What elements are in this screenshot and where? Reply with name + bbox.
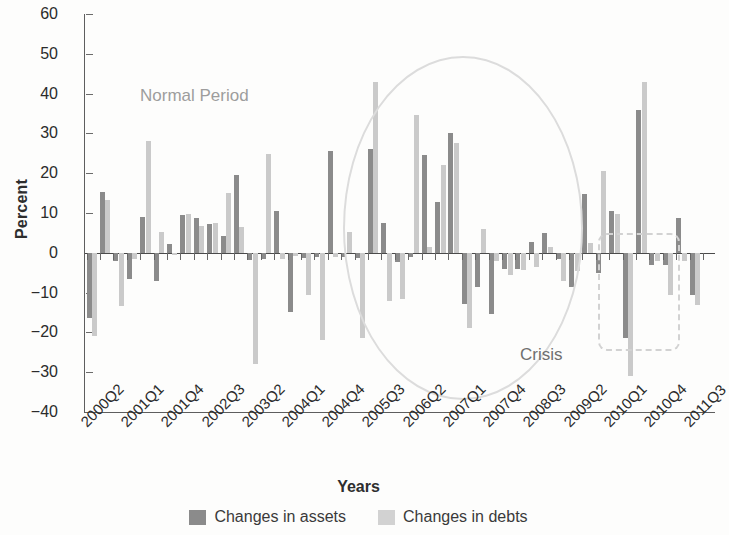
bar-debts: [119, 253, 124, 306]
x-tick-mark: [194, 253, 195, 260]
x-tick-mark: [569, 253, 570, 260]
bar-debts: [682, 253, 687, 261]
bar-assets: [422, 155, 427, 253]
bar-debts: [213, 223, 218, 253]
bar-assets: [462, 253, 467, 304]
y-tick-label: 0: [12, 244, 58, 262]
x-tick-mark: [690, 253, 691, 260]
x-tick-mark: [288, 253, 289, 260]
bar-group: [623, 14, 636, 412]
legend-label: Changes in debts: [403, 508, 528, 526]
bar-assets: [100, 192, 105, 253]
bar-debts: [373, 82, 378, 253]
bar-debts: [494, 253, 499, 261]
bar-debts: [467, 253, 472, 329]
bar-assets: [288, 253, 293, 313]
bar-group: [690, 14, 703, 412]
x-tick-mark: [596, 253, 597, 260]
legend-item: Changes in debts: [378, 508, 528, 526]
bar-assets: [234, 175, 239, 253]
bar-group: [596, 14, 609, 412]
x-tick-mark: [328, 253, 329, 260]
bar-assets: [381, 223, 386, 253]
bar-group: [154, 14, 167, 412]
bar-group: [475, 14, 488, 412]
bar-debts: [575, 253, 580, 271]
bar-assets: [368, 149, 373, 252]
y-tick-label: 50: [12, 45, 58, 63]
x-tick-mark: [395, 253, 396, 260]
bar-debts: [414, 115, 419, 252]
bar-debts: [186, 214, 191, 253]
bar-assets: [140, 217, 145, 253]
bar-assets: [435, 202, 440, 253]
bar-assets: [636, 110, 641, 253]
x-tick-mark: [140, 253, 141, 260]
bar-debts: [508, 253, 513, 275]
bar-debts: [239, 227, 244, 253]
bar-group: [502, 14, 515, 412]
bar-group: [462, 14, 475, 412]
x-tick-mark: [341, 253, 342, 260]
legend-swatch-debts: [378, 510, 395, 525]
bar-group: [247, 14, 260, 412]
bar-debts: [253, 253, 258, 364]
bar-debts: [534, 253, 539, 267]
x-tick-mark: [154, 253, 155, 260]
bar-debts: [360, 253, 365, 339]
bar-group: [234, 14, 247, 412]
bar-assets: [167, 244, 172, 253]
bar-debts: [441, 165, 446, 253]
x-tick-mark: [261, 253, 262, 260]
bar-group: [448, 14, 461, 412]
x-axis-title: Years: [0, 478, 717, 496]
bar-group: [489, 14, 502, 412]
y-tick-label: 20: [12, 164, 58, 182]
x-tick-mark: [381, 253, 382, 260]
x-tick-mark: [167, 253, 168, 260]
bar-group: [368, 14, 381, 412]
bar-assets: [180, 215, 185, 253]
bar-debts: [387, 253, 392, 301]
bar-assets: [529, 242, 534, 253]
bar-group: [140, 14, 153, 412]
bar-debts: [159, 232, 164, 253]
x-tick-mark: [542, 253, 543, 260]
crisis-dashed-box-annotation: [598, 233, 680, 351]
x-tick-mark: [113, 253, 114, 260]
normal-period-label: Normal Period: [140, 86, 249, 106]
bar-group: [395, 14, 408, 412]
bar-debts: [454, 143, 459, 252]
bar-group: [422, 14, 435, 412]
bar-group: [435, 14, 448, 412]
bar-debts: [588, 243, 593, 253]
y-tick-label: −40: [12, 403, 58, 421]
x-tick-mark: [475, 253, 476, 260]
bar-group: [381, 14, 394, 412]
x-tick-mark: [502, 253, 503, 260]
bar-group: [314, 14, 327, 412]
bar-debts: [226, 193, 231, 253]
bar-group: [288, 14, 301, 412]
bar-debts: [521, 253, 526, 270]
bar-group: [341, 14, 354, 412]
bar-assets: [274, 211, 279, 252]
bar-group: [221, 14, 234, 412]
bar-debts: [266, 154, 271, 253]
bar-group: [408, 14, 421, 412]
bar-group: [113, 14, 126, 412]
bar-group: [582, 14, 595, 412]
bar-debts: [400, 253, 405, 299]
bar-debts: [92, 253, 97, 337]
bar-group: [194, 14, 207, 412]
x-tick-mark: [127, 253, 128, 260]
bar-group: [180, 14, 193, 412]
x-tick-mark: [703, 253, 704, 260]
crisis-label: Crisis: [520, 345, 563, 365]
bar-debts: [320, 253, 325, 341]
y-tick-label: 30: [12, 124, 58, 142]
y-tick-label: 10: [12, 204, 58, 222]
bar-debts: [695, 253, 700, 305]
bar-debts: [280, 253, 285, 259]
